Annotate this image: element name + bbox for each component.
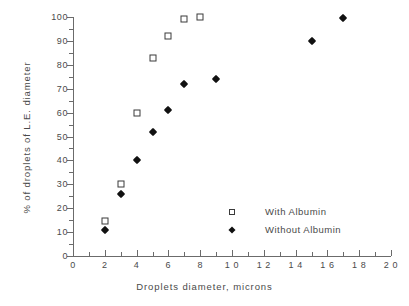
data-point-filled-diamond xyxy=(307,37,315,45)
x-tick-minor xyxy=(153,252,154,256)
x-tick-minor xyxy=(280,252,281,256)
x-tick-major xyxy=(391,250,392,256)
x-tick-minor xyxy=(343,252,344,256)
open-square-icon xyxy=(229,209,235,215)
y-tick-label: 60 xyxy=(57,108,68,118)
x-tick-minor xyxy=(121,252,122,256)
data-point-open-square xyxy=(165,33,172,40)
y-tick-minor xyxy=(69,244,73,245)
data-point-open-square xyxy=(149,54,156,61)
data-point-filled-diamond xyxy=(101,225,109,233)
y-axis-line xyxy=(73,17,74,257)
data-point-filled-diamond xyxy=(148,127,156,135)
data-point-filled-diamond xyxy=(132,156,140,164)
data-point-filled-diamond xyxy=(164,106,172,114)
x-tick-major xyxy=(327,250,328,256)
x-tick-minor xyxy=(375,252,376,256)
data-point-filled-diamond xyxy=(339,14,347,22)
data-point-open-square xyxy=(197,14,204,21)
x-tick-minor xyxy=(312,252,313,256)
x-tick-major xyxy=(264,250,265,256)
y-tick-label: 50 xyxy=(57,132,68,142)
y-tick-label: 40 xyxy=(57,155,68,165)
data-point-filled-diamond xyxy=(116,190,124,198)
x-tick-major xyxy=(232,250,233,256)
y-tick-minor xyxy=(69,220,73,221)
y-tick-minor xyxy=(69,148,73,149)
y-tick-minor xyxy=(69,53,73,54)
legend-entry: With Albumin xyxy=(265,203,341,221)
y-tick-label: 70 xyxy=(57,84,68,94)
x-tick-major xyxy=(200,250,201,256)
x-tick-minor xyxy=(216,252,217,256)
x-tick-label: 0 xyxy=(70,260,76,270)
data-point-filled-diamond xyxy=(212,75,220,83)
x-tick-minor xyxy=(248,252,249,256)
x-tick-label: 1 8 xyxy=(352,260,366,270)
x-tick-label: 1 0 xyxy=(225,260,239,270)
x-axis-title: Droplets diameter, microns xyxy=(0,281,409,292)
y-tick-label: 100 xyxy=(51,12,68,22)
x-tick-label: 4 xyxy=(134,260,140,270)
data-point-open-square xyxy=(117,181,124,188)
x-tick-major xyxy=(137,250,138,256)
y-tick-label: 30 xyxy=(57,179,68,189)
y-tick-label: 0 xyxy=(62,251,68,261)
x-tick-label: 8 xyxy=(197,260,203,270)
x-tick-major xyxy=(168,250,169,256)
x-tick-label: 6 xyxy=(166,260,172,270)
data-point-open-square xyxy=(181,16,188,23)
x-tick-label: 1 4 xyxy=(288,260,302,270)
data-point-filled-diamond xyxy=(180,80,188,88)
filled-diamond-icon xyxy=(228,226,235,233)
y-tick-minor xyxy=(69,172,73,173)
x-tick-minor xyxy=(184,252,185,256)
y-tick-minor xyxy=(69,125,73,126)
y-tick-minor xyxy=(69,77,73,78)
x-tick-major xyxy=(296,250,297,256)
legend-label: With Albumin xyxy=(265,206,326,217)
y-axis-title: % of droplets of L.E. diameter xyxy=(21,28,32,248)
y-tick-label: 80 xyxy=(57,60,68,70)
x-tick-label: 2 0 xyxy=(384,260,398,270)
x-axis-line xyxy=(73,256,391,257)
x-tick-major xyxy=(73,250,74,256)
legend-entry: Without Albumin xyxy=(265,221,341,239)
y-tick-minor xyxy=(69,29,73,30)
y-tick-label: 10 xyxy=(57,227,68,237)
y-tick-label: 20 xyxy=(57,203,68,213)
legend-label: Without Albumin xyxy=(265,224,341,235)
y-tick-label: 90 xyxy=(57,36,68,46)
x-tick-label: 1 2 xyxy=(257,260,271,270)
x-tick-label: 2 xyxy=(102,260,108,270)
data-point-open-square xyxy=(101,218,108,225)
x-tick-label: 1 6 xyxy=(320,260,334,270)
x-tick-minor xyxy=(89,252,90,256)
x-tick-major xyxy=(105,250,106,256)
scatter-chart-figure: 0102030405060708090100 024681 01 21 41 6… xyxy=(0,0,409,306)
x-tick-major xyxy=(359,250,360,256)
y-tick-minor xyxy=(69,101,73,102)
chart-legend: With AlbuminWithout Albumin xyxy=(265,203,341,239)
y-tick-minor xyxy=(69,196,73,197)
data-point-open-square xyxy=(133,109,140,116)
